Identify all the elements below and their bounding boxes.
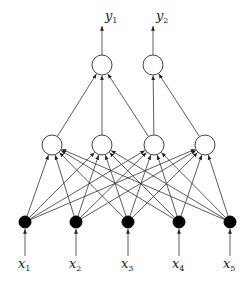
nodes-layer bbox=[19, 55, 236, 228]
hidden-node-h3 bbox=[144, 135, 164, 155]
edge-x4-h4 bbox=[181, 155, 202, 216]
edge-x1-h2 bbox=[29, 152, 94, 217]
edge-h3-y1 bbox=[108, 74, 149, 137]
output-node-y1 bbox=[92, 55, 112, 75]
input-node-x3 bbox=[122, 216, 134, 228]
input-label-x5: x5 bbox=[223, 256, 235, 273]
input-node-x2 bbox=[70, 216, 82, 228]
edge-x5-h3 bbox=[161, 152, 225, 217]
input-label-x2: x2 bbox=[69, 256, 81, 273]
edge-x1-h1 bbox=[27, 155, 49, 216]
edge-x3-h3 bbox=[130, 155, 151, 216]
edge-x1-h4 bbox=[31, 149, 196, 220]
hidden-node-h4 bbox=[195, 135, 215, 155]
hidden-node-h1 bbox=[42, 135, 62, 155]
input-node-x1 bbox=[19, 216, 31, 228]
edge-x2-h3 bbox=[80, 152, 146, 217]
edge-x5-h4 bbox=[208, 155, 228, 216]
edge-h4-y2 bbox=[159, 74, 200, 137]
output-label-y2: y2 bbox=[155, 8, 168, 25]
edge-h1-y1 bbox=[57, 74, 96, 137]
input-label-x1: x1 bbox=[18, 256, 30, 273]
input-node-x4 bbox=[173, 216, 185, 228]
input-label-x3: x3 bbox=[121, 256, 133, 273]
input-label-x4: x4 bbox=[172, 256, 184, 273]
edge-x4-h3 bbox=[157, 155, 177, 216]
edge-x3-h2 bbox=[105, 155, 126, 216]
output-label-y1: y1 bbox=[104, 8, 117, 25]
hidden-node-h2 bbox=[92, 135, 112, 155]
input-node-x5 bbox=[224, 216, 236, 228]
edge-h3-y2 bbox=[153, 75, 154, 135]
neural-network-diagram: x1x2x3x4x5y1y2 bbox=[0, 0, 248, 286]
output-node-y2 bbox=[143, 55, 163, 75]
